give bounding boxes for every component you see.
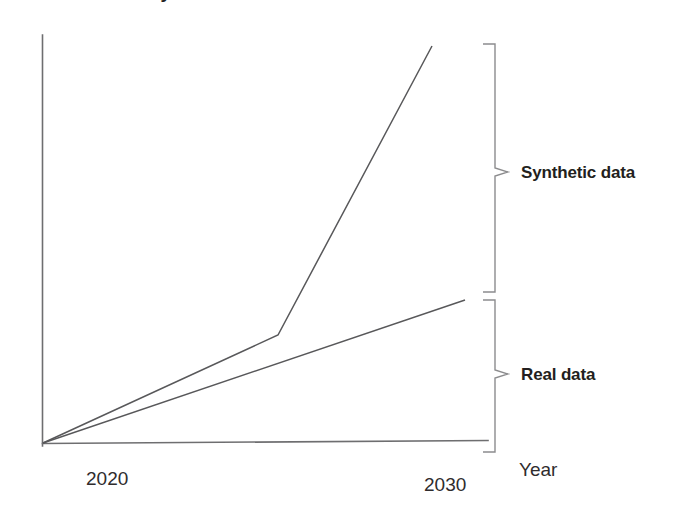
x-tick-label-2030: 2030: [424, 474, 466, 496]
brace-synthetic: [483, 44, 508, 292]
x-axis-line: [43, 441, 489, 444]
series-line-real: [43, 300, 465, 443]
series-line-synthetic: [43, 46, 432, 443]
brace-real: [483, 300, 508, 452]
chart-figure: Forecast use of synthetic data for AI 20…: [0, 0, 673, 517]
chart-plot-area: [0, 0, 673, 517]
x-axis-label: Year: [519, 459, 557, 481]
x-tick-label-2020: 2020: [86, 468, 128, 490]
series-label-real: Real data: [521, 365, 595, 385]
series-label-synthetic: Synthetic data: [521, 163, 635, 183]
